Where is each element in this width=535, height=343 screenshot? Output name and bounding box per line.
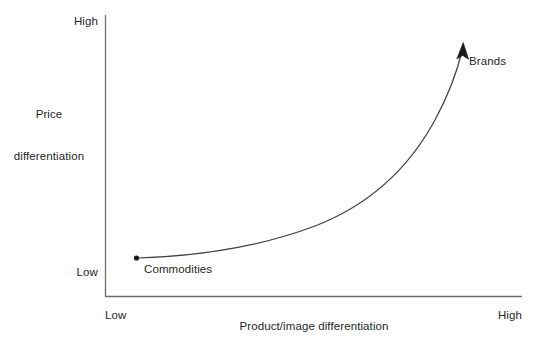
y-axis-high-tick-label: High (0, 15, 98, 28)
y-axis-title-line-2: differentiation (0, 149, 98, 163)
price-differentiation-curve (137, 51, 462, 258)
commodities-annotation-label: Commodities (144, 263, 212, 276)
curve-arrowhead-icon (457, 43, 469, 60)
commodities-point-marker (134, 255, 139, 260)
x-axis-title: Product/image differentiation (105, 320, 523, 333)
y-axis-low-tick-label: Low (0, 266, 98, 279)
brands-annotation-label: Brands (469, 55, 506, 68)
chart-figure: High Low Price differentiation Low High … (0, 0, 535, 343)
y-axis-title: Price differentiation (0, 79, 98, 191)
y-axis-title-line-1: Price (0, 107, 98, 121)
